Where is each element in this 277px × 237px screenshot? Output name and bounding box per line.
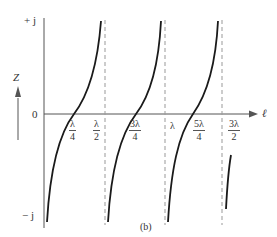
y-bottom-label: − j: [22, 210, 34, 221]
z-axis-label: Z: [13, 72, 19, 83]
tick-three-lambda-half: 3λ2: [228, 119, 240, 142]
tick-three-lambda-quarter: 3λ4: [129, 119, 141, 142]
tick-lambda-quarter: λ4: [69, 119, 76, 142]
tick-lambda-half: λ2: [93, 119, 100, 142]
tick-five-lambda-quarter: 5λ4: [193, 119, 205, 142]
y-top-label: + j: [24, 15, 36, 26]
x-axis-arrow-icon: [249, 111, 258, 118]
figure-caption: (b): [140, 222, 152, 232]
y-zero-label: 0: [32, 109, 38, 120]
z-arrow-icon: [15, 86, 21, 97]
curve-branch-4: [226, 155, 231, 209]
x-axis-label: ℓ: [262, 108, 267, 119]
tick-lambda: λ: [170, 121, 175, 131]
